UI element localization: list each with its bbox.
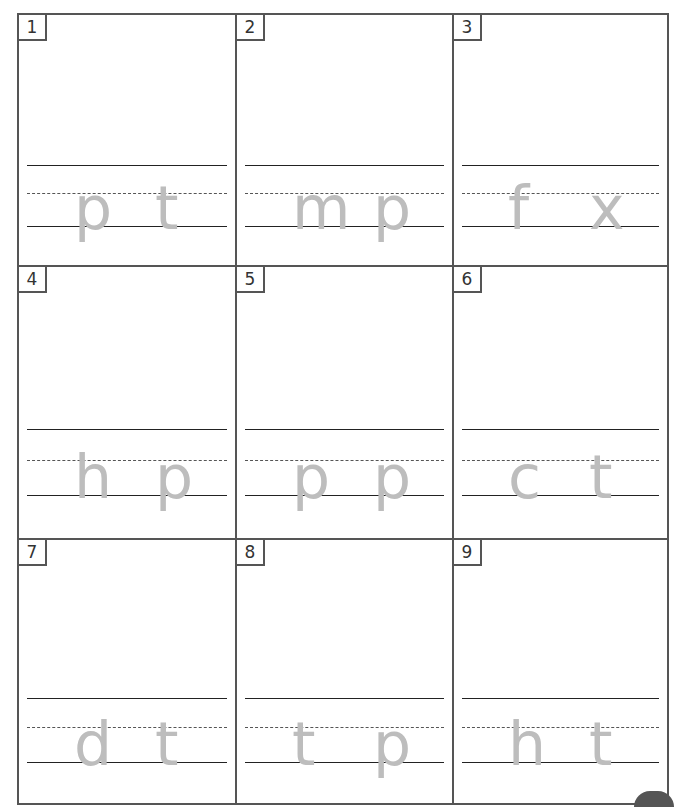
midline (245, 460, 444, 461)
trace-letter-1: p (74, 178, 112, 238)
trace-letter-1: t (292, 714, 316, 774)
practice-cell-5[interactable]: 5 p p (235, 265, 454, 540)
practice-cell-9[interactable]: 9 h t (452, 538, 669, 805)
top-line (462, 429, 659, 430)
cell-number: 7 (17, 538, 47, 566)
trace-letter-2: p (373, 178, 411, 238)
practice-cell-1[interactable]: 1 p t (17, 13, 237, 267)
top-line (462, 165, 659, 166)
trace-letter-2: t (155, 178, 179, 238)
baseline (462, 495, 659, 496)
baseline (462, 762, 659, 763)
trace-letter-1: p (292, 447, 330, 507)
trace-letter-2: x (589, 178, 625, 238)
trace-letter-2: p (155, 447, 193, 507)
baseline (27, 762, 227, 763)
trace-letter-1: d (74, 714, 112, 774)
trace-letter-2: t (589, 447, 613, 507)
top-line (27, 698, 227, 699)
trace-letter-2: p (373, 714, 411, 774)
top-line (245, 429, 444, 430)
trace-letter-1: m (292, 178, 350, 238)
baseline (462, 226, 659, 227)
midline (462, 460, 659, 461)
baseline (245, 495, 444, 496)
top-line (245, 698, 444, 699)
midline (27, 460, 227, 461)
top-line (245, 165, 444, 166)
midline (27, 727, 227, 728)
cell-number: 8 (235, 538, 265, 566)
midline (245, 727, 444, 728)
baseline (27, 226, 227, 227)
cell-number: 2 (235, 13, 265, 41)
trace-letter-1: f (508, 178, 529, 238)
top-line (462, 698, 659, 699)
trace-letter-1: h (508, 714, 546, 774)
midline (462, 193, 659, 194)
trace-letter-1: h (74, 447, 112, 507)
trace-letter-2: p (373, 447, 411, 507)
midline (462, 727, 659, 728)
baseline (27, 495, 227, 496)
cell-number: 6 (452, 265, 482, 293)
cell-number: 1 (17, 13, 47, 41)
practice-cell-2[interactable]: 2 m p (235, 13, 454, 267)
midline (27, 193, 227, 194)
baseline (245, 762, 444, 763)
cell-number: 4 (17, 265, 47, 293)
top-line (27, 165, 227, 166)
practice-cell-8[interactable]: 8 t p (235, 538, 454, 805)
top-line (27, 429, 227, 430)
cell-number: 3 (452, 13, 482, 41)
cell-number: 9 (452, 538, 482, 566)
trace-letter-2: t (589, 714, 613, 774)
practice-cell-3[interactable]: 3 f x (452, 13, 669, 267)
practice-cell-6[interactable]: 6 c t (452, 265, 669, 540)
cell-number: 5 (235, 265, 265, 293)
trace-letter-1: c (508, 447, 541, 507)
practice-cell-4[interactable]: 4 h p (17, 265, 237, 540)
trace-letter-2: t (155, 714, 179, 774)
practice-cell-7[interactable]: 7 d t (17, 538, 237, 805)
